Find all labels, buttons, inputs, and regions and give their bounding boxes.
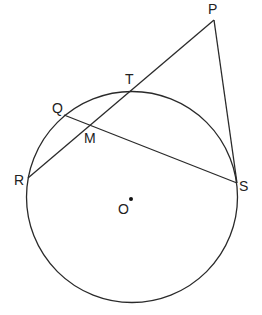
- label-m: M: [84, 130, 96, 146]
- label-t: T: [125, 71, 134, 87]
- label-s: S: [239, 178, 248, 194]
- geometry-diagram: P T Q M R S O: [0, 0, 262, 315]
- label-p: P: [208, 1, 217, 17]
- circle-o: [27, 92, 238, 303]
- secant-pr: [28, 20, 214, 178]
- center-dot: [129, 197, 133, 201]
- chord-qs: [64, 115, 237, 183]
- label-o: O: [118, 201, 129, 217]
- tangent-ps: [214, 20, 237, 183]
- label-q: Q: [52, 100, 63, 116]
- label-r: R: [14, 172, 24, 188]
